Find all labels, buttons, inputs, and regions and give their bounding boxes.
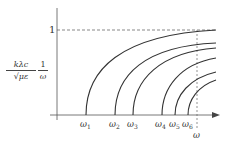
ylabel-numerator: kλc — [6, 60, 36, 71]
x-marker-omega: ω — [193, 130, 200, 140]
curve-mode-3 — [133, 48, 216, 115]
x-tick-omega5: ω5 — [169, 119, 180, 130]
x-tick-omega4: ω4 — [155, 119, 166, 130]
ylabel-factor-numerator: 1 — [38, 60, 48, 71]
dispersion-chart: 1 ω1 ω2 ω3 ω4 ω5 ω6 ω kλc √με 1 ω — [0, 0, 229, 143]
ylabel-factor: 1 ω — [38, 60, 48, 81]
mode-curves — [86, 30, 216, 115]
y-tick-1: 1 — [49, 24, 55, 35]
ylabel-factor-denominator: ω — [38, 71, 48, 81]
x-tick-omega2: ω2 — [109, 119, 120, 130]
x-tick-labels: ω1 ω2 ω3 ω4 ω5 ω6 ω — [80, 119, 200, 140]
curve-mode-6 — [188, 80, 216, 115]
ylabel-denominator: √με — [6, 71, 36, 81]
x-tick-omega1: ω1 — [80, 119, 91, 130]
x-axis-arrow-icon — [212, 112, 220, 118]
x-tick-omega3: ω3 — [127, 119, 138, 130]
ylabel-fraction: kλc √με — [6, 60, 36, 81]
curve-mode-2 — [115, 43, 216, 115]
x-tick-omega6: ω6 — [182, 119, 193, 130]
